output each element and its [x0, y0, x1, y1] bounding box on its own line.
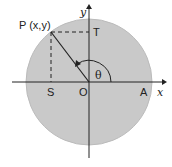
x-axis-arrow-icon: [162, 79, 167, 85]
label-theta: θ: [95, 69, 102, 82]
label-x-axis: x: [157, 86, 164, 99]
diagram-canvas: P (x,y) T S O A x y θ: [0, 0, 172, 167]
label-s: S: [47, 86, 54, 98]
unit-circle-diagram: P (x,y) T S O A x y θ: [0, 0, 172, 167]
label-p: P (x,y): [19, 19, 51, 31]
label-y-axis: y: [79, 6, 87, 19]
label-o: O: [79, 86, 88, 98]
label-a: A: [140, 86, 148, 98]
label-t: T: [93, 26, 100, 38]
y-axis-arrow-icon: [86, 4, 92, 9]
